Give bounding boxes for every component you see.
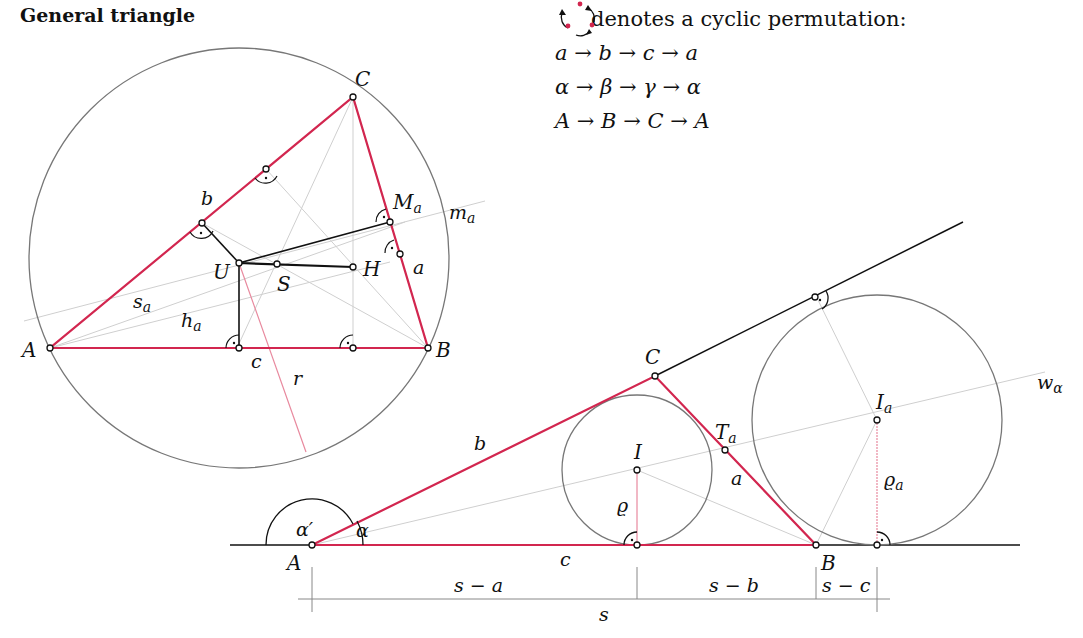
perpendicular-bisectors <box>202 222 390 348</box>
label-I: I <box>633 440 643 464</box>
label-S: S <box>277 272 291 296</box>
label-A: A <box>20 338 36 362</box>
right-angle-dots-2 <box>631 299 883 541</box>
construction-lines-2 <box>312 296 1045 545</box>
label-Ta: Ta <box>715 420 737 446</box>
label-A-2: A <box>285 551 301 575</box>
label-B-2: B <box>820 551 836 575</box>
label-s: s <box>599 603 609 625</box>
cyclic-permutation-icon <box>559 2 594 36</box>
triangle-abc-2 <box>312 376 816 545</box>
label-side-c-2: c <box>560 548 571 570</box>
angle-arcs <box>266 291 890 545</box>
label-U: U <box>213 260 231 284</box>
figure-incircle-excircle: A B C a b c I Ia Ta wα ϱ ϱa α α′ s − a s… <box>230 222 1063 625</box>
circumcircle <box>29 48 449 468</box>
label-side-b-2: b <box>474 432 486 454</box>
label-r: r <box>293 367 304 389</box>
extension-ac <box>655 222 963 376</box>
label-s-minus-c: s − c <box>822 574 871 596</box>
label-B: B <box>435 338 451 362</box>
label-s-minus-a: s − a <box>454 574 503 596</box>
label-Ia: Ia <box>875 390 892 416</box>
label-side-a-2: a <box>731 467 742 489</box>
label-Ma: Ma <box>392 190 422 216</box>
label-C: C <box>355 67 370 91</box>
label-side-c: c <box>251 350 262 372</box>
label-s-minus-b: s − b <box>709 574 759 596</box>
label-side-a: a <box>413 256 424 278</box>
label-w-alpha: wα <box>1037 371 1063 396</box>
points-2 <box>309 294 880 548</box>
label-sa: sa <box>133 290 151 315</box>
label-H: H <box>362 257 381 281</box>
diagram-canvas: A B C a b c U S H Ma ma sa ha r <box>0 0 1083 638</box>
label-rho-a: ϱa <box>884 468 904 493</box>
label-alpha: α <box>356 519 369 541</box>
figure-circumcircle: A B C a b c U S H Ma ma sa ha r <box>20 48 485 468</box>
dimension-lines <box>298 567 890 612</box>
label-alpha-prime: α′ <box>296 518 314 540</box>
label-side-b: b <box>201 187 213 209</box>
label-C-2: C <box>645 345 660 369</box>
label-rho: ϱ <box>617 494 629 516</box>
label-ha: ha <box>181 309 202 334</box>
